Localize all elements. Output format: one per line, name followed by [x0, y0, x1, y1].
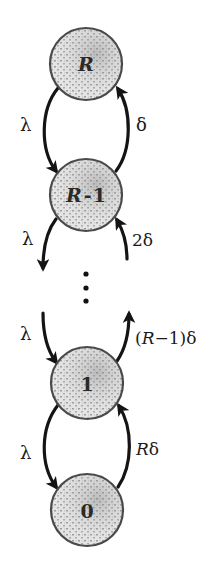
node-1-label: 1: [80, 373, 93, 395]
label-2delta: 2δ: [132, 230, 153, 250]
edge-down-to-1-lambda: [43, 313, 56, 362]
node-0-label: 0: [80, 500, 93, 522]
label-Rminus1-delta: (R−1)δ: [135, 328, 196, 348]
node-R-label: R: [77, 53, 94, 75]
ellipsis-dots: [83, 271, 88, 303]
state-diagram: R R-1 1 0 λ δ λ 2δ λ (R−1)δ λ Rδ: [0, 0, 221, 574]
label-lambda-1: λ: [20, 114, 31, 135]
edge-R-to-R1-lambda: [44, 88, 58, 171]
label-Rdelta: Rδ: [135, 439, 159, 459]
label-lambda-2: λ: [22, 228, 33, 249]
node-R: R: [50, 28, 122, 100]
node-0: 0: [51, 474, 123, 546]
edge-1-to-0-lambda: [44, 405, 58, 487]
label-delta-1: δ: [136, 114, 147, 135]
edge-0-to-1-Rdelta: [118, 406, 129, 487]
edge-1-to-up-Rminus1delta: [117, 314, 129, 361]
node-1: 1: [51, 347, 123, 419]
label-lambda-4: λ: [20, 442, 31, 463]
edge-R1-to-R-delta: [116, 89, 128, 171]
edge-R1-to-down-lambda: [43, 219, 56, 268]
node-R-minus-1: R-1: [50, 159, 122, 231]
edge-up-to-R1-2delta: [117, 220, 127, 259]
label-lambda-3: λ: [20, 323, 31, 344]
node-R-minus-1-label: R-1: [65, 184, 106, 206]
